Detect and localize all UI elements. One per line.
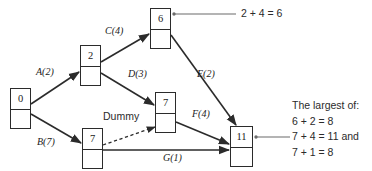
edge-F-line <box>176 122 229 144</box>
edge-label-G: G(1) <box>163 153 182 163</box>
node-6[interactable]: 6 <box>150 8 171 49</box>
node-6-value: 6 <box>151 9 170 30</box>
node-7-bottom-value: 7 <box>83 129 102 150</box>
edge-label-dummy: Dummy <box>103 111 139 122</box>
edge-label-E: E(2) <box>197 69 215 79</box>
network-diagram-canvas: 0 2 6 7 7 11 A(2) B(7) C(4) D(3) E(2) F(… <box>0 0 372 171</box>
right-callout-line-3: 7 + 1 = 8 <box>292 145 359 161</box>
right-callout-line-1: 6 + 2 = 8 <box>292 114 359 130</box>
node-11[interactable]: 11 <box>230 126 253 167</box>
node-6-lower-cell <box>151 30 170 49</box>
node-11-value: 11 <box>231 127 252 148</box>
node-0[interactable]: 0 <box>10 88 31 129</box>
top-callout-text: 2 + 4 = 6 <box>241 8 282 19</box>
right-callout-block: The largest of: 6 + 2 = 8 7 + 4 = 11 and… <box>292 98 359 160</box>
node-0-lower-cell <box>11 110 30 129</box>
edge-label-B: B(7) <box>37 137 55 147</box>
edge-label-D: D(3) <box>128 69 147 79</box>
node-2[interactable]: 2 <box>80 45 101 86</box>
right-callout-heading: The largest of: <box>292 98 359 114</box>
edge-label-C: C(4) <box>105 26 123 36</box>
node-7-middle-lower-cell <box>156 114 175 133</box>
edge-label-F: F(4) <box>192 109 210 119</box>
node-11-lower-cell <box>231 148 252 167</box>
node-7-bottom-lower-cell <box>83 150 102 169</box>
edge-C-line <box>101 34 149 62</box>
node-0-value: 0 <box>11 89 30 110</box>
node-7-middle[interactable]: 7 <box>155 92 176 133</box>
edge-Dummy-line <box>103 127 155 145</box>
node-7-middle-value: 7 <box>156 93 175 114</box>
node-7-bottom[interactable]: 7 <box>82 128 103 169</box>
node-2-value: 2 <box>81 46 100 67</box>
edge-label-A: A(2) <box>36 67 54 77</box>
right-callout-line-2: 7 + 4 = 11 and <box>292 129 359 145</box>
node-2-lower-cell <box>81 67 100 86</box>
